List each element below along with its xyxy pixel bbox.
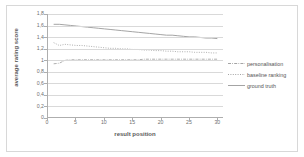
legend-label: baseline ranking [245,72,286,78]
y-axis-tick-label: 1,4 [37,35,44,40]
gridline [48,106,223,107]
y-axis-tick-label: 0,6 [37,81,44,86]
x-axis-tick-mark [132,118,133,121]
gridline [48,26,223,27]
x-axis-tick-labels: 051015202530 [47,120,223,130]
y-axis-tick-mark [44,106,47,107]
y-axis-tick-mark [44,72,47,73]
x-axis-tick-mark [161,118,162,121]
x-axis-title: result position [47,131,223,138]
y-axis-tick-label: 1,6 [37,23,44,28]
y-axis-tick-label: 0,4 [37,92,44,97]
x-axis-tick-mark [75,118,76,121]
y-axis-tick-mark [44,37,47,38]
x-axis-tick-mark [104,118,105,121]
legend-label: personalisation [245,61,283,67]
series-layer [48,14,223,117]
legend-item: ground truth [228,80,294,91]
legend-item: personalisation [228,58,294,69]
y-axis-tick-label: 1,8 [37,11,44,16]
legend-label: ground truth [245,83,276,89]
legend-swatch [228,71,245,78]
y-axis-tick-mark [44,14,47,15]
y-axis-tick-mark [44,49,47,50]
chart-figure: 00,20,40,60,811,21,41,61,8 051015202530 … [0,0,304,157]
y-axis-title: average rating score [13,18,20,98]
legend-item: baseline ranking [228,69,294,80]
gridline [48,72,223,73]
y-axis-tick-label: 0,8 [37,69,44,74]
plot-area [47,14,223,118]
gridline [48,95,223,96]
y-axis-tick-mark [44,83,47,84]
legend-swatch [228,82,245,89]
gridline [48,49,223,50]
gridline [48,60,223,61]
x-axis-tick-mark [189,118,190,121]
y-axis-tick-mark [44,60,47,61]
y-axis-tick-mark [44,26,47,27]
y-axis-tick-mark [44,95,47,96]
chart-legend: personalisationbaseline rankingground tr… [228,58,294,91]
gridline [48,83,223,84]
y-axis-tick-label: 0,2 [37,104,44,109]
x-axis-tick-mark [47,118,48,121]
x-axis-tick-mark [217,118,218,121]
gridline [48,37,223,38]
y-axis-tick-label: 1,2 [37,46,44,51]
y-axis-tick-labels: 00,20,40,60,811,21,41,61,8 [28,14,44,118]
legend-swatch [228,60,245,67]
gridline [48,14,223,15]
